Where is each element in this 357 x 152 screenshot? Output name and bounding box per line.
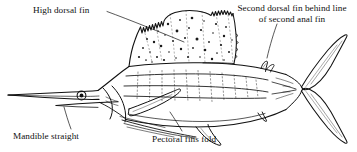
- label-pectoral-fins-fold: Pectoral fins fold: [152, 134, 216, 145]
- head: [98, 67, 129, 123]
- label-second-dorsal-fin: Second dorsal fin behind line of second …: [228, 3, 356, 24]
- leader-lines: [64, 12, 277, 132]
- eye: [77, 91, 86, 100]
- lateral-markings: [124, 70, 268, 102]
- leader-pectoral-fins-fold: [170, 112, 182, 131]
- pectoral-fin: [129, 89, 181, 116]
- sailfish-diagram: High dorsal fin Second dorsal fin behind…: [0, 0, 357, 152]
- caudal-fin: [302, 35, 348, 144]
- label-high-dorsal-fin: High dorsal fin: [33, 5, 89, 16]
- label-mandible-straight: Mandible straight: [13, 131, 79, 142]
- high-dorsal-fin-sail: [129, 11, 238, 67]
- caudal-keel: [272, 75, 302, 110]
- leader-second-dorsal-fin: [267, 24, 277, 58]
- leader-high-dorsal-fin: [107, 12, 184, 43]
- bill: [8, 91, 118, 108]
- label-second-dorsal-fin-line2: of second anal fin: [228, 14, 356, 25]
- leader-mandible-straight: [64, 107, 71, 129]
- label-second-dorsal-fin-line1: Second dorsal fin behind line: [237, 3, 346, 13]
- sail-spots: [138, 17, 233, 63]
